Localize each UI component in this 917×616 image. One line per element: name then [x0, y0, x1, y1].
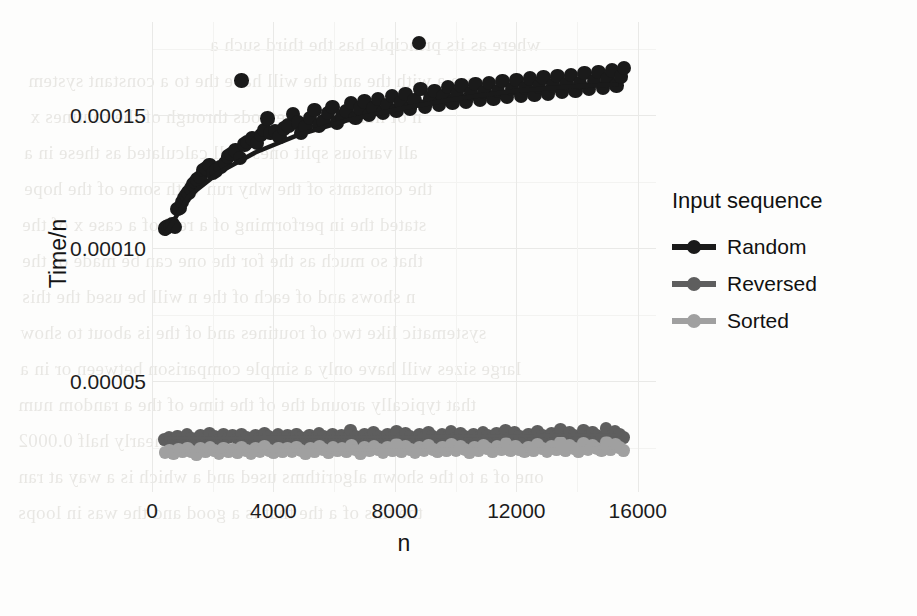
trend-line-layer: [152, 22, 656, 492]
legend-marker-icon: [672, 313, 716, 329]
y-tick-label: 0.00010: [70, 238, 146, 259]
x-axis-label: n: [152, 530, 656, 557]
x-tick-label: 8000: [372, 500, 419, 521]
plot-panel: [152, 22, 656, 492]
figure-root: 0.000050.000100.00015 040008000120001600…: [0, 0, 917, 616]
trend-line-random: [166, 85, 617, 234]
y-axis-label: Time/n: [45, 174, 72, 334]
x-tick-label: 0: [146, 500, 158, 521]
y-tick-label: 0.00005: [70, 371, 146, 392]
y-tick-label: 0.00015: [70, 105, 146, 126]
legend-item-label: Reversed: [727, 272, 817, 296]
x-tick-label: 4000: [250, 500, 297, 521]
legend-marker-icon: [672, 239, 716, 255]
legend-dot-swatch: [687, 277, 701, 291]
legend-marker-icon: [672, 276, 716, 292]
x-tick-label: 12000: [487, 500, 545, 521]
legend-title: Input sequence: [672, 188, 902, 214]
legend-items: RandomReversedSorted: [672, 228, 902, 339]
legend-dot-swatch: [687, 240, 701, 254]
legend-item-random[interactable]: Random: [672, 228, 902, 265]
legend: Input sequence RandomReversedSorted: [672, 188, 902, 339]
x-tick-label: 16000: [609, 500, 667, 521]
legend-item-label: Random: [727, 235, 806, 259]
legend-item-sorted[interactable]: Sorted: [672, 302, 902, 339]
legend-item-label: Sorted: [727, 309, 789, 333]
trend-line-sorted: [166, 448, 620, 451]
legend-item-reversed[interactable]: Reversed: [672, 265, 902, 302]
legend-dot-swatch: [687, 314, 701, 328]
y-axis-ticks: 0.000050.000100.00015: [0, 22, 146, 492]
trend-line-reversed: [166, 435, 620, 438]
x-axis-ticks: 0400080001200016000: [152, 500, 656, 530]
